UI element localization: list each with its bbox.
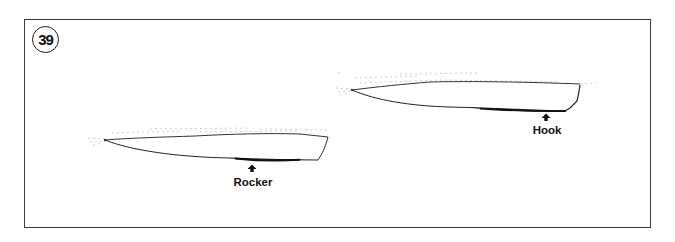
rocker-hull-bow-point	[104, 139, 106, 141]
rocker-hull-bottom	[105, 140, 318, 160]
hook-arrow-icon	[542, 114, 551, 122]
hook-hull-stern	[565, 85, 580, 111]
rocker-arrow-icon	[248, 165, 257, 173]
rocker-label: Rocker	[234, 176, 273, 188]
hook-hull-sheer-line	[352, 82, 580, 90]
hull-profile-figure: 39	[0, 0, 675, 242]
bow-spray-marks	[88, 128, 330, 145]
hook-hull-bow-point	[351, 89, 353, 91]
hook-hull-bottom	[352, 90, 565, 111]
hook-hull	[336, 72, 596, 121]
rocker-hull	[88, 128, 330, 172]
hull-drawings	[0, 0, 675, 242]
rocker-hull-stern	[318, 137, 328, 160]
hook-label: Hook	[533, 124, 562, 136]
rocker-hull-sheer-line	[105, 134, 328, 140]
